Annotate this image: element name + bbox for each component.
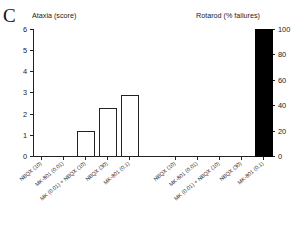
- ataxia-ytick-6: 6: [23, 25, 27, 34]
- panel-letter: C: [3, 5, 16, 26]
- ataxia-plot-title: Ataxia (score): [32, 11, 76, 20]
- rotarod-ytick-40: 40: [278, 101, 286, 110]
- ataxia-ytick-3: 3: [23, 88, 27, 97]
- bar-ataxia-mk801-01: [121, 95, 138, 156]
- rotarod-ytick-0: 0: [278, 152, 282, 161]
- figure-panel-c: C Ataxia (score) Rotarod (% failures) 6 …: [0, 0, 296, 225]
- rotarod-bars: [255, 30, 272, 157]
- bar-ataxia-mk-nbqx: [77, 131, 94, 156]
- rotarod-ytick-60: 60: [278, 76, 286, 85]
- bar-rotarod-mk801-01: [255, 30, 272, 157]
- rotarod-ytick-20: 20: [278, 127, 286, 136]
- rotarod-plot-title: Rotarod (% failures): [196, 11, 260, 20]
- ataxia-ytick-0: 0: [23, 152, 27, 161]
- ataxia-ytick-4: 4: [23, 67, 27, 76]
- bar-chart-svg: C Ataxia (score) Rotarod (% failures) 6 …: [0, 0, 296, 225]
- bar-ataxia-nbqx-30: [99, 109, 116, 157]
- rotarod-ytick-100: 100: [278, 25, 290, 34]
- ataxia-ytick-2: 2: [23, 110, 27, 119]
- ataxia-ytick-5: 5: [23, 46, 27, 55]
- rotarod-ytick-80: 80: [278, 50, 286, 59]
- ataxia-ytick-1: 1: [23, 131, 27, 140]
